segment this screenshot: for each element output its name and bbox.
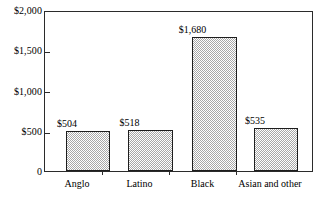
x-axis-tick-mark-2 [169,171,170,175]
x-axis-label-anglo: Anglo [55,178,99,189]
y-axis-tick-mark-1500 [45,52,50,53]
y-axis-tick-label-500: $500 [0,127,42,137]
bar-value-latino: $518 [107,118,152,128]
y-axis-tick-mark-1000 [45,92,50,93]
x-axis-label-latino: Latino [117,178,162,189]
bar-value-black: $1,680 [169,25,216,35]
y-axis-tick-label-1500: $1,500 [0,46,42,56]
bar-anglo [66,131,110,171]
y-axis-tick-label-2000: $2,000 [0,6,42,16]
bar-value-asian-and-other: $535 [233,116,277,126]
plot-area [44,11,313,172]
bar-latino [128,130,173,171]
y-axis-tick-label-0: 0 [0,167,42,177]
bar-asian-and-other [254,128,298,171]
bar-chart: $2,000 $1,500 $1,000 $500 0 $504 $518 $1… [0,0,324,203]
x-axis-label-black: Black [180,178,225,189]
x-axis-tick-mark-3 [236,171,237,175]
y-axis-tick-mark-500 [45,133,50,134]
bar-black [192,37,237,171]
x-axis-tick-mark-1 [102,171,103,175]
x-axis-label-asian-and-other: Asian and other [225,178,315,189]
y-axis-tick-label-1000: $1,000 [0,87,42,97]
bar-value-anglo: $504 [45,119,89,129]
